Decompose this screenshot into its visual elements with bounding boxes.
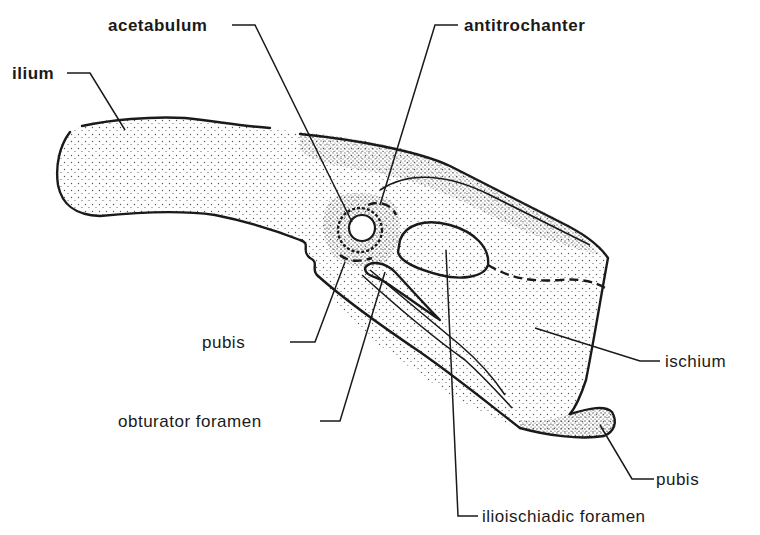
acetabulum-opening <box>349 215 375 241</box>
label-ilioischiadic-foramen: ilioischiadic foramen <box>482 507 646 526</box>
label-pubis-upper: pubis <box>202 333 245 352</box>
label-ilium: ilium <box>12 64 54 83</box>
label-pubis-lower: pubis <box>656 470 699 489</box>
label-ischium: ischium <box>665 352 726 371</box>
pelvis-diagram: acetabulum antitrochanter ilium pubis ob… <box>0 0 760 535</box>
pelvis-bone <box>57 117 615 437</box>
label-antitrochanter: antitrochanter <box>464 16 585 35</box>
label-obturator-foramen: obturator foramen <box>118 412 262 431</box>
label-acetabulum: acetabulum <box>108 16 207 35</box>
